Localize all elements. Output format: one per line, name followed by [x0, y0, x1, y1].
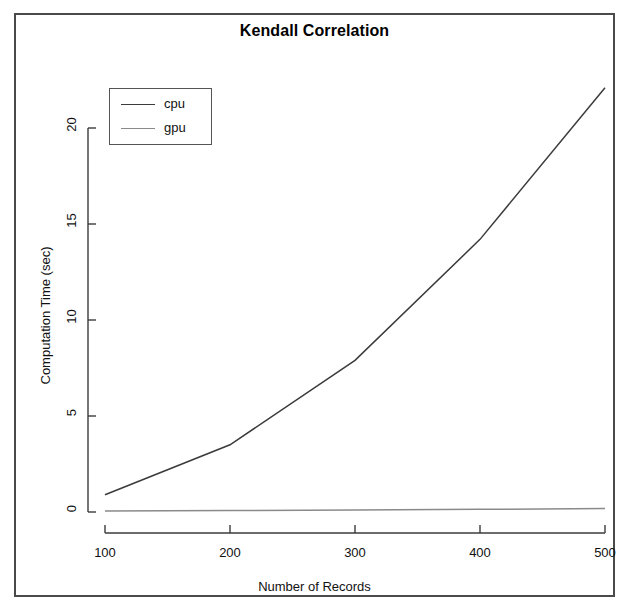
legend-entry-gpu: gpu — [110, 117, 213, 141]
legend-swatch-icon — [121, 104, 155, 105]
figure-canvas: Kendall Correlation Computation Time (se… — [0, 0, 629, 616]
legend-label: gpu — [164, 120, 186, 135]
legend-swatch-icon — [121, 128, 155, 129]
series-line-gpu — [105, 509, 605, 511]
legend-label: cpu — [164, 96, 185, 111]
chart-legend: cpu gpu — [109, 88, 212, 145]
plot-area — [0, 0, 629, 616]
y-axis — [88, 128, 96, 512]
x-axis — [105, 525, 605, 533]
series-line-cpu — [105, 88, 605, 495]
legend-entry-cpu: cpu — [110, 93, 213, 117]
